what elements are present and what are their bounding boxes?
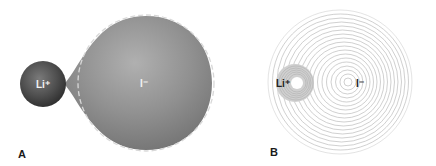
panel-label-a: A	[18, 148, 26, 160]
panel-b: Li⁺ I⁻ B	[268, 10, 412, 158]
anion-label-b: I⁻	[356, 78, 364, 89]
cation-label-b: Li⁺	[276, 78, 290, 89]
panel-label-b: B	[270, 146, 278, 158]
cation-label-a: Li⁺	[36, 79, 50, 90]
panel-a: Li⁺ I⁻ A	[18, 15, 214, 160]
anion-label-a: I⁻	[140, 78, 148, 89]
polarization-diagram: Li⁺ I⁻ A	[0, 0, 436, 166]
lithium-core	[291, 77, 303, 89]
iodide-polarized-shape	[64, 16, 212, 150]
